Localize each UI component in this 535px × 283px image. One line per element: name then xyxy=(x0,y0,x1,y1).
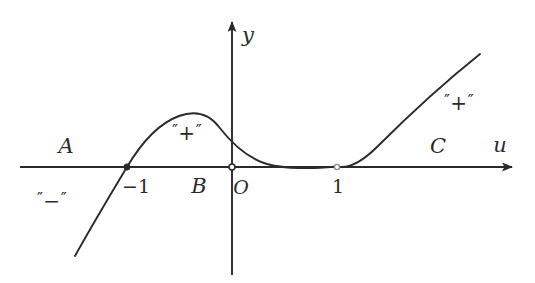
sign-label-plus-region-b: ″+″ xyxy=(172,123,202,143)
quote-open-icon: ″ xyxy=(444,91,450,110)
u-axis-label: u xyxy=(493,135,507,156)
math-figure: u y O −1 1 A B C ″−″ ″+″ ″+″ xyxy=(0,0,535,283)
origin-marker xyxy=(229,164,235,170)
plot-canvas xyxy=(0,0,535,283)
plus-sign-glyph: + xyxy=(178,121,195,145)
region-label-c: C xyxy=(430,136,446,157)
sign-label-minus-region-a: ″−″ xyxy=(37,191,67,211)
region-label-b: B xyxy=(191,176,206,197)
quote-open-icon: ″ xyxy=(37,189,43,208)
sign-label-plus-region-c: ″+″ xyxy=(444,93,474,113)
tick-label-minus-one: −1 xyxy=(122,177,150,196)
root-marker-minus-one xyxy=(124,164,130,170)
origin-label: O xyxy=(233,178,249,197)
root-marker-one xyxy=(334,164,339,169)
cubic-curve xyxy=(75,54,480,256)
quote-close-icon: ″ xyxy=(468,91,474,110)
quote-open-icon: ″ xyxy=(172,121,178,140)
minus-sign-glyph: − xyxy=(43,189,60,213)
quote-close-icon: ″ xyxy=(61,189,67,208)
region-label-a: A xyxy=(58,136,73,157)
tick-label-one: 1 xyxy=(332,177,344,196)
plus-sign-glyph: + xyxy=(450,91,467,115)
y-axis-label: y xyxy=(242,25,254,46)
quote-close-icon: ″ xyxy=(196,121,202,140)
